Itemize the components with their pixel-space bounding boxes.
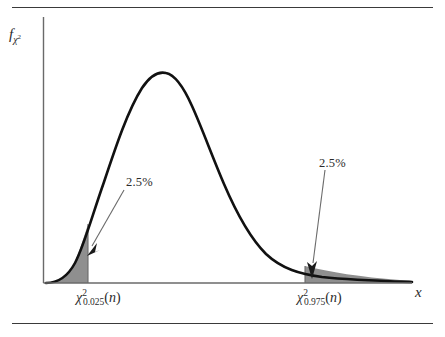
plot-canvas [0, 0, 445, 337]
right-annotation-leader [313, 170, 325, 263]
lower-quantile-label: χ20.025(n) [76, 289, 121, 308]
chi-square-figure: fχ2 x 2.5% 2.5% χ20.025(n) χ20.975(n) [0, 0, 445, 337]
density-curve [46, 73, 412, 283]
y-axis-label: fχ2 [9, 27, 21, 45]
upper-quantile-label: χ20.975(n) [297, 289, 342, 308]
upper-quantile-paren-close: ) [337, 290, 342, 305]
left-annotation-arrowhead [87, 243, 100, 256]
lower-quantile-subscript: 0.025 [83, 297, 104, 307]
right-tail-percent-label: 2.5% [319, 157, 346, 170]
lower-quantile-paren-close: ) [116, 290, 121, 305]
x-axis-label: x [415, 285, 422, 300]
upper-quantile-subscript: 0.975 [304, 297, 325, 307]
y-axis-label-subscript: χ2 [13, 34, 21, 45]
lower-quantile-argument: n [109, 290, 116, 305]
y-axis-label-sub-exponent: 2 [18, 33, 22, 41]
left-annotation-leader [92, 190, 124, 246]
left-tail-percent-label: 2.5% [126, 176, 153, 189]
upper-quantile-argument: n [330, 290, 337, 305]
